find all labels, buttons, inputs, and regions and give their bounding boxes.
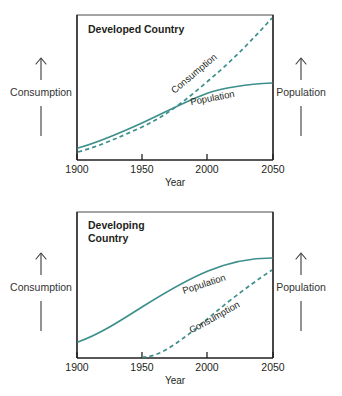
panel-title-developing-line2: Country — [88, 232, 128, 244]
x-tick-label-2000-developed: 2000 — [195, 163, 219, 175]
right-axis-label-developed: Population — [276, 86, 326, 98]
left-axis-label-developing: Consumption — [10, 281, 72, 293]
left-axis-label-developed: Consumption — [10, 86, 72, 98]
x-axis-title-developing: Year — [165, 375, 186, 386]
x-tick-label-1900-developed: 1900 — [65, 163, 89, 175]
x-tick-label-1950-developing: 1950 — [130, 361, 154, 373]
x-tick-label-2000-developing: 2000 — [195, 361, 219, 373]
right-axis-label-developing: Population — [276, 281, 326, 293]
x-tick-label-2050-developed: 2050 — [261, 163, 285, 175]
chart-panel-developed: Consumption Population 1900 1950 2000 20… — [0, 0, 342, 198]
series-label-consumption-developed: Consumption — [169, 51, 219, 95]
x-tick-label-1950-developed: 1950 — [130, 163, 154, 175]
panel-title-developing-line1: Developing — [88, 219, 145, 231]
chart-panel-developing: Consumption Population 1900 1950 2000 20… — [0, 198, 342, 396]
x-tick-label-2050-developing: 2050 — [261, 361, 285, 373]
series-label-population-developing: Population — [181, 272, 227, 296]
x-axis-title-developed: Year — [165, 177, 186, 188]
series-population-curve-developing — [78, 258, 272, 342]
x-tick-label-1900-developing: 1900 — [65, 361, 89, 373]
series-label-consumption-developing: Consumption — [187, 299, 241, 336]
x-ticks-developing — [77, 352, 273, 358]
panel-title-developed: Developed Country — [88, 23, 184, 35]
x-ticks-developed — [77, 154, 273, 160]
